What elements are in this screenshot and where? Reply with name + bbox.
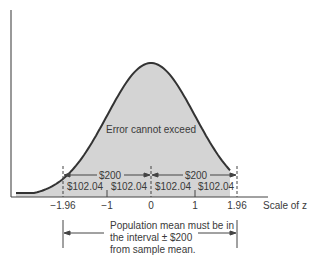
x-tick-label: 1 <box>192 200 198 211</box>
segment-label-1: $102.04 <box>67 181 104 192</box>
segment-label-2: $102.04 <box>111 181 148 192</box>
normal-curve-chart: $200 $200 $102.04 $102.04 $102.04 $102.0… <box>0 0 310 261</box>
x-tick-label: 1.96 <box>227 200 247 211</box>
annotation-line-1: Population mean must be in <box>110 220 234 231</box>
segment-label-3: $102.04 <box>155 181 192 192</box>
annotation-line-3: from sample mean. <box>110 244 196 255</box>
x-tick-label: −1 <box>101 200 113 211</box>
inner-label: Error cannot exceed <box>106 124 196 135</box>
bracket-left-label: $200 <box>99 170 122 181</box>
segment-label-4: $102.04 <box>198 181 235 192</box>
annotation-line-2: the interval ± $200 <box>110 232 193 243</box>
x-tick-label: −1.96 <box>50 200 76 211</box>
x-axis-label: Scale of z <box>263 200 307 211</box>
bracket-right-label: $200 <box>185 170 208 181</box>
x-tick-label: 0 <box>148 200 154 211</box>
